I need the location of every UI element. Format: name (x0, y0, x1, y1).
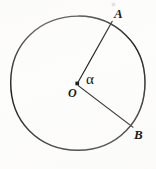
angle-label-alpha: α (86, 72, 94, 87)
vertex-label-a: A (114, 7, 123, 20)
circle-diagram-canvas (0, 0, 156, 169)
vertex-label-b: B (134, 128, 143, 141)
center-label-o: O (68, 87, 77, 99)
center-point-dot (75, 82, 79, 86)
radius-segment-ob (78, 86, 133, 128)
geometry-figure: A B O α (0, 0, 156, 169)
radius-segment-oa (78, 21, 113, 83)
